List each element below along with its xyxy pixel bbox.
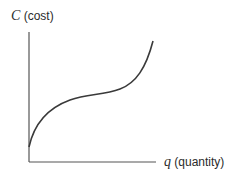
cost-curve-plot: [0, 0, 237, 176]
y-axis-text: (cost): [24, 9, 54, 23]
x-axis-label: q (quantity): [164, 154, 224, 170]
x-axis-text: (quantity): [174, 155, 224, 169]
y-axis-label: C (cost): [11, 8, 54, 24]
x-axis-symbol: q: [164, 154, 171, 169]
cost-curve: [29, 41, 153, 147]
cost-curve-figure: C (cost) q (quantity): [0, 0, 237, 176]
y-axis-symbol: C: [11, 8, 20, 23]
